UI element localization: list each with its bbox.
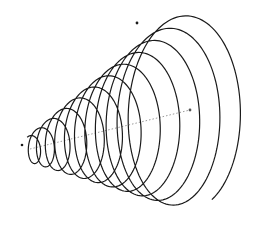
conical-helix-figure: [0, 0, 255, 244]
helix-start-point: [21, 144, 24, 147]
conical-helix-curve: [27, 16, 240, 205]
axis-end-point: [189, 109, 192, 112]
helix-end-point: [136, 22, 139, 25]
diagram-canvas: [0, 0, 255, 244]
